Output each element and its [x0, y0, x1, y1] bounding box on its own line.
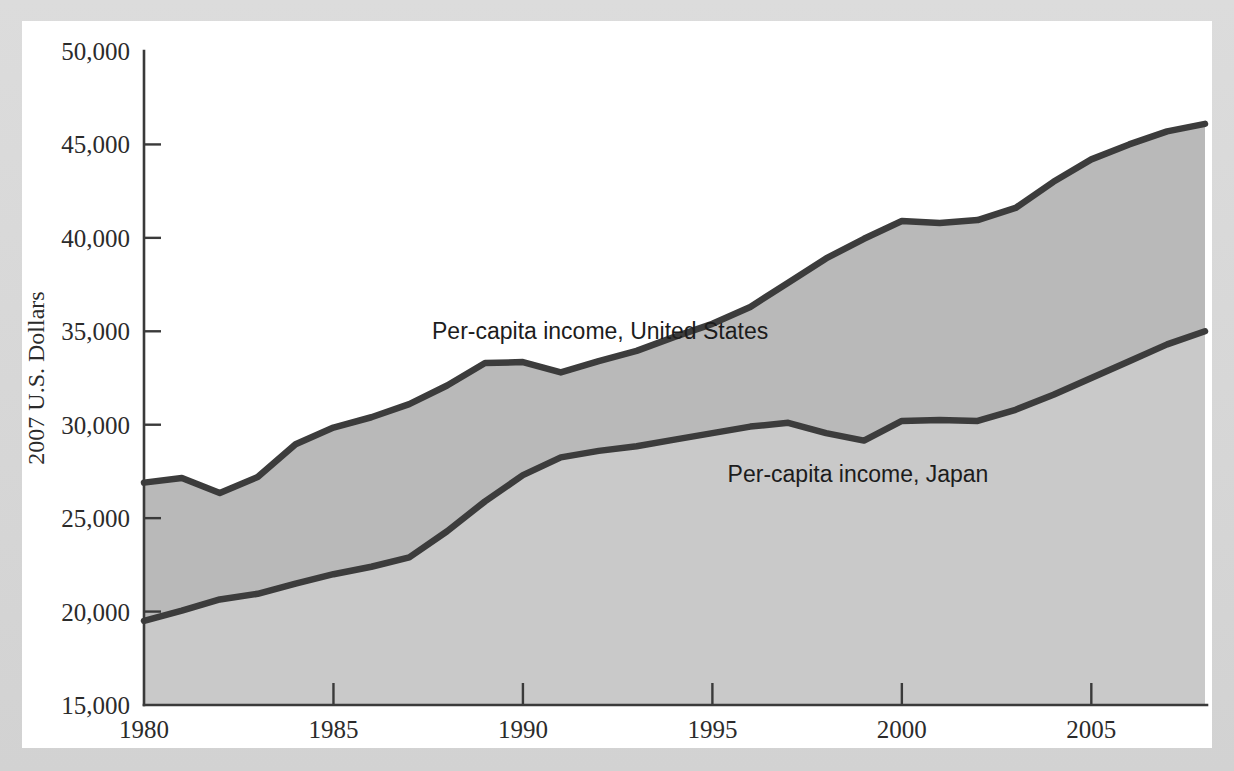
y-tick-label: 15,000	[61, 692, 130, 719]
x-tick-label: 1990	[498, 716, 548, 743]
y-axis-tick-labels: 50,00045,00040,00035,00030,00025,00020,0…	[61, 38, 130, 719]
y-tick-label: 45,000	[61, 131, 130, 158]
x-tick-label: 2000	[877, 716, 927, 743]
y-tick-label: 50,000	[61, 38, 130, 65]
x-tick-label: 1995	[687, 716, 737, 743]
x-tick-label: 2005	[1066, 716, 1116, 743]
y-tick-label: 30,000	[61, 412, 130, 439]
y-tick-label: 35,000	[61, 318, 130, 345]
japan-series-annotation: Per-capita income, Japan	[728, 461, 989, 487]
y-tick-label: 20,000	[61, 599, 130, 626]
x-tick-label: 1980	[119, 716, 169, 743]
us-series-annotation: Per-capita income, United States	[432, 318, 768, 344]
y-axis-title: 2007 U.S. Dollars	[23, 291, 49, 464]
area-chart: 50,00045,00040,00035,00030,00025,00020,0…	[0, 0, 1234, 771]
x-tick-label: 1985	[308, 716, 358, 743]
y-tick-label: 40,000	[61, 225, 130, 252]
chart-area-bands	[144, 124, 1205, 705]
x-axis-tick-labels: 198019851990199520002005	[119, 716, 1116, 743]
y-tick-label: 25,000	[61, 505, 130, 532]
